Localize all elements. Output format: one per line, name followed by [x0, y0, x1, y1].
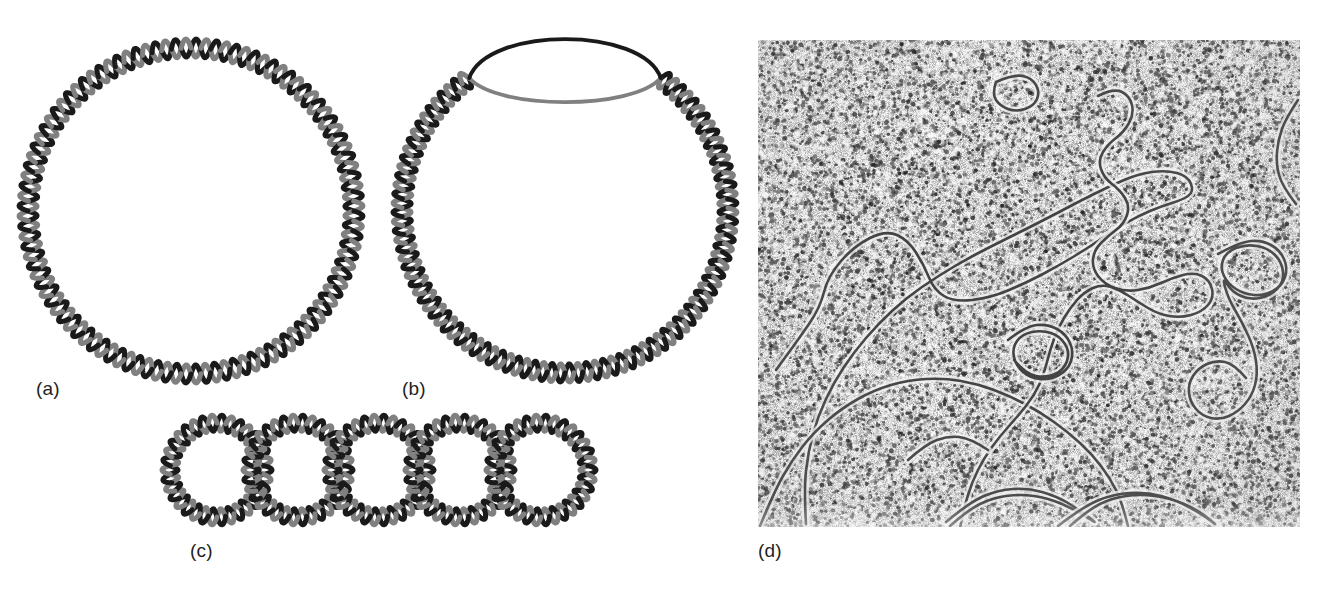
panel-d-electron-micrograph: [758, 40, 1300, 527]
dna-topology-figure: (a) (b) (c) (d): [0, 0, 1322, 589]
panel-c-catenane: [165, 415, 565, 530]
panel-b-denaturation-bubble: [385, 18, 745, 393]
panel-label-d: (d): [758, 540, 782, 562]
panel-label-c: (c): [190, 540, 213, 562]
electron-micrograph-image: [758, 40, 1300, 527]
catenane-diagram: [165, 415, 565, 530]
panel-a-circular-dna: [10, 30, 370, 390]
circular-dna-diagram: [10, 30, 370, 390]
bubble-dna-diagram: [385, 18, 745, 393]
panel-label-b: (b): [402, 378, 426, 400]
panel-label-a: (a): [36, 378, 60, 400]
